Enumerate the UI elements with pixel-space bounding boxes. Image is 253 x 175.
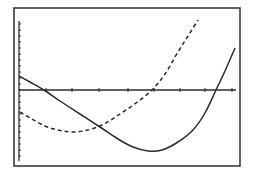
dashed-curve	[20, 20, 198, 132]
solid-curve	[19, 48, 235, 151]
graph-screen	[0, 0, 253, 175]
x-axis	[19, 88, 236, 92]
plot-frame	[14, 8, 240, 166]
y-axis	[19, 21, 21, 161]
